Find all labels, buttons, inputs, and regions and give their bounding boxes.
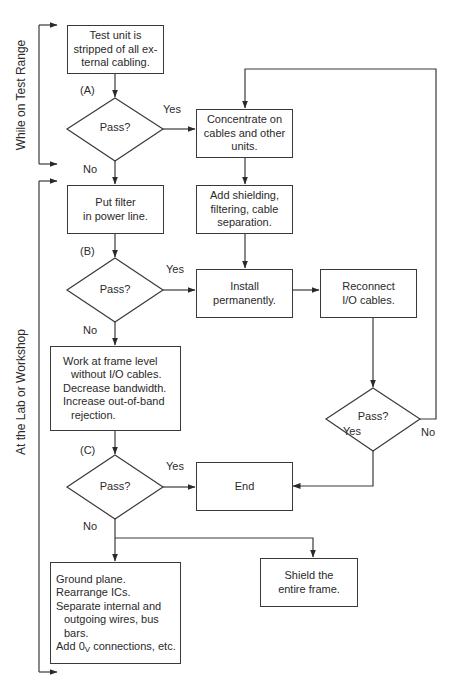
step-end-text: End	[235, 480, 255, 494]
text-line: without I/O cables.	[63, 368, 166, 382]
text-line: rejection.	[63, 409, 166, 423]
step-work-frame-level: Work at frame level without I/O cables. …	[50, 346, 181, 431]
phase-label-lab-workshop: At the Lab or Workshop	[14, 329, 28, 455]
step-add-shielding: Add shielding, filtering, cable separati…	[196, 185, 293, 234]
phase-label-test-range: While on Test Range	[14, 40, 28, 151]
text-line: Separate internal and	[56, 600, 176, 614]
decision-c-tag: (C)	[80, 444, 95, 456]
step-concentrate-cables: Concentrate on cables and other units.	[196, 109, 293, 158]
step-add-shielding-text: Add shielding, filtering, cable separati…	[210, 189, 279, 230]
text-line: Increase out-of-band	[63, 395, 166, 409]
step-reconnect-io-text: Reconnect I/O cables.	[342, 280, 395, 307]
decision-b-yes: Yes	[166, 263, 184, 275]
decision-c-yes: Yes	[166, 460, 184, 472]
decision-a-yes: Yes	[163, 103, 181, 115]
text-line: Add 0V connections, etc.	[56, 640, 176, 654]
step-shield-frame-text: Shield the entire frame.	[278, 569, 340, 596]
step-ground-plane-text: Ground plane. Rearrange ICs. Separate in…	[56, 573, 176, 654]
step-put-filter-text: Put filter in power line.	[83, 196, 148, 223]
step-strip-cabling-text: Test unit is stripped of all ex- ternal …	[74, 29, 158, 70]
step-concentrate-cables-text: Concentrate on cables and other units.	[204, 113, 285, 154]
decision-d-yes: Yes	[343, 425, 361, 437]
decision-d-no: No	[421, 426, 435, 438]
decision-c-no: No	[83, 520, 97, 532]
decision-a-tag: (A)	[80, 84, 95, 96]
text-fragment: Add 0	[56, 640, 85, 652]
step-reconnect-io: Reconnect I/O cables.	[320, 269, 417, 318]
step-install-permanently-text: Install permanently.	[213, 280, 276, 307]
decision-b-no: No	[83, 324, 97, 336]
step-strip-cabling: Test unit is stripped of all ex- ternal …	[67, 25, 164, 74]
step-ground-plane: Ground plane. Rearrange ICs. Separate in…	[50, 562, 181, 664]
step-install-permanently: Install permanently.	[196, 269, 293, 318]
step-put-filter: Put filter in power line.	[67, 185, 164, 234]
text-fragment: connections, etc.	[90, 640, 176, 652]
step-end: End	[196, 462, 293, 511]
text-line: Rearrange ICs.	[56, 586, 176, 600]
decision-a-text: Pass?	[100, 121, 131, 133]
text-line: Decrease bandwidth.	[63, 382, 166, 396]
decision-b-tag: (B)	[80, 245, 95, 257]
text-line: Ground plane.	[56, 573, 176, 587]
decision-d-text: Pass?	[358, 410, 389, 422]
step-shield-frame: Shield the entire frame.	[260, 558, 358, 607]
decision-a-no: No	[83, 163, 97, 175]
text-line: bars.	[56, 627, 176, 641]
decision-b-text: Pass?	[100, 283, 131, 295]
text-line: Work at frame level	[63, 355, 166, 369]
text-line: outgoing wires, bus	[56, 613, 176, 627]
step-work-frame-level-text: Work at frame level without I/O cables. …	[63, 355, 166, 423]
decision-c-text: Pass?	[100, 480, 131, 492]
